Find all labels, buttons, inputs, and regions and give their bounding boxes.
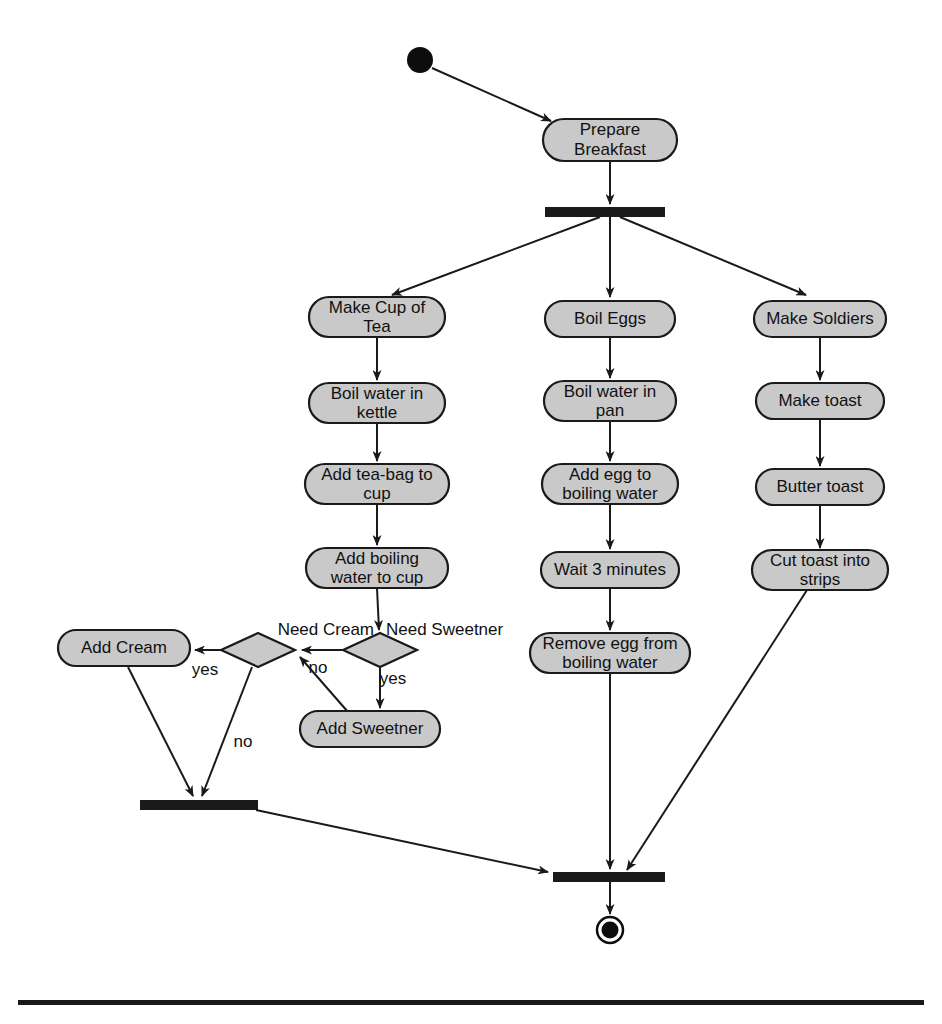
- activity-node-boil-water-pan[interactable]: Boil water in pan: [544, 381, 676, 421]
- activity-label-line-1: Make toast: [778, 391, 861, 410]
- activity-label-line-2: cup: [363, 484, 390, 503]
- activity-node-add-egg-to-boiling-water[interactable]: Add egg to boiling water: [542, 464, 678, 504]
- activity-node-add-sweetner[interactable]: Add Sweetner: [300, 711, 440, 747]
- activity-label-line-1: Make Cup of: [329, 298, 426, 317]
- activity-node-boil-water-kettle[interactable]: Boil water in kettle: [309, 383, 445, 423]
- guard-label-sweetner-no: no: [309, 658, 328, 677]
- activity-node-prepare-breakfast[interactable]: Prepare Breakfast: [543, 119, 677, 161]
- guard-label-cream-yes: yes: [192, 660, 218, 679]
- decision-label-need-cream: Need Cream: [278, 620, 374, 639]
- guard-label-sweetner-yes: yes: [380, 669, 406, 688]
- activity-label-line-2: strips: [800, 570, 841, 589]
- activity-node-boil-eggs[interactable]: Boil Eggs: [545, 301, 675, 337]
- activity-label-line-1: Add Sweetner: [317, 719, 424, 738]
- join-bar-tea: [140, 800, 258, 810]
- decision-label-layer: Need Cream Need Sweetner: [278, 620, 504, 639]
- activity-node-add-cream[interactable]: Add Cream: [58, 630, 190, 666]
- activity-label-line-1: Boil Eggs: [574, 309, 646, 328]
- activity-label-line-1: Wait 3 minutes: [554, 560, 666, 579]
- activity-label-line-2: Tea: [363, 317, 391, 336]
- initial-node-icon: [407, 47, 433, 73]
- activity-node-add-tea-bag[interactable]: Add tea-bag to cup: [305, 464, 449, 504]
- activity-node-remove-egg[interactable]: Remove egg from boiling water: [530, 633, 690, 673]
- activity-label-line-2: kettle: [357, 403, 398, 422]
- activity-label-line-1: Cut toast into: [770, 551, 870, 570]
- edge-start-to-prepare-breakfast: [432, 68, 551, 121]
- activity-label-line-2: Breakfast: [574, 140, 646, 159]
- edge-add-cream-to-join-tea: [128, 667, 193, 796]
- activity-label-line-2: boiling water: [562, 653, 658, 672]
- activity-label-line-1: Prepare: [580, 120, 640, 139]
- edge-fork-to-make-soldiers: [620, 217, 806, 295]
- activity-label-line-2: water to cup: [330, 568, 424, 587]
- activity-label-line-2: pan: [596, 401, 624, 420]
- activity-node-make-soldiers[interactable]: Make Soldiers: [754, 301, 886, 337]
- activity-node-wait-3-minutes[interactable]: Wait 3 minutes: [541, 552, 679, 588]
- uml-activity-diagram: Prepare Breakfast Make Cup of Tea Boil w…: [0, 0, 942, 1024]
- activity-label-line-2: boiling water: [562, 484, 658, 503]
- activity-label-line-1: Make Soldiers: [766, 309, 874, 328]
- activity-diagram-canvas: Prepare Breakfast Make Cup of Tea Boil w…: [0, 0, 942, 1024]
- activity-node-butter-toast[interactable]: Butter toast: [756, 469, 884, 505]
- activity-label-line-1: Boil water in: [331, 384, 424, 403]
- activity-label-line-1: Boil water in: [564, 382, 657, 401]
- decision-label-need-sweetner: Need Sweetner: [386, 620, 504, 639]
- page-footer-rule: [18, 1000, 924, 1005]
- activity-node-layer: Prepare Breakfast Make Cup of Tea Boil w…: [58, 119, 888, 747]
- activity-label-line-1: Butter toast: [777, 477, 864, 496]
- activity-node-cut-toast[interactable]: Cut toast into strips: [752, 550, 888, 590]
- activity-node-make-cup-of-tea[interactable]: Make Cup of Tea: [309, 297, 445, 337]
- activity-label-line-1: Add boiling: [335, 549, 419, 568]
- edge-layer: [128, 68, 820, 914]
- activity-label-line-1: Add egg to: [569, 465, 651, 484]
- activity-node-make-toast[interactable]: Make toast: [756, 383, 884, 419]
- final-node-dot-icon: [602, 922, 619, 939]
- activity-label-line-1: Remove egg from: [542, 634, 677, 653]
- edge-fork-to-make-cup-of-tea: [392, 217, 600, 295]
- fork-bar-main: [545, 207, 665, 217]
- activity-label-line-1: Add tea-bag to: [321, 465, 433, 484]
- activity-label-line-1: Add Cream: [81, 638, 167, 657]
- edge-add-boiling-water-to-need-sweetner: [377, 588, 379, 630]
- guard-label-cream-no: no: [234, 732, 253, 751]
- activity-node-add-boiling-water[interactable]: Add boiling water to cup: [306, 548, 448, 588]
- edge-join-tea-to-join-final: [256, 810, 548, 872]
- join-bar-final: [553, 872, 665, 882]
